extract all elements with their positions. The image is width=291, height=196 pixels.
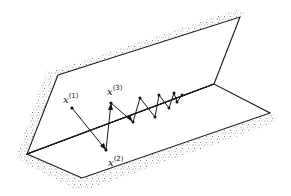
descent-path <box>72 93 182 150</box>
point <box>176 101 179 104</box>
hatch-bottom-right-band <box>82 113 278 190</box>
hatch-bottom-left-band <box>16 154 84 190</box>
point-x1 <box>70 106 73 109</box>
point <box>173 92 176 95</box>
point <box>158 94 161 97</box>
hatch-top-band <box>50 9 246 75</box>
point-x3 <box>109 101 112 104</box>
point <box>154 116 157 119</box>
point <box>181 94 184 97</box>
iterate-labels: x(1) x(3) x(2) <box>63 84 124 168</box>
point <box>132 121 135 124</box>
zigzag-polyline <box>72 93 182 150</box>
iterate-points <box>70 92 183 152</box>
label-x1: x(1) <box>63 92 79 105</box>
valley-diagram: x(1) x(3) x(2) <box>0 0 291 196</box>
point <box>139 97 142 100</box>
back-plane <box>27 17 240 154</box>
point <box>168 107 171 110</box>
label-x3: x(3) <box>107 84 123 97</box>
point-x2 <box>104 148 107 151</box>
ground-hatching <box>16 9 278 190</box>
